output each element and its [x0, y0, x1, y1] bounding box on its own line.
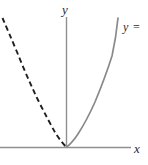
x-axis-label: x	[134, 142, 140, 155]
parabola-right-branch-solid	[67, 18, 119, 147]
curve-equation-label: y =	[123, 21, 141, 33]
parabola-left-branch-dashed	[3, 18, 67, 147]
y-axis-label: y	[62, 3, 68, 16]
parabola-figure: y x y =	[0, 0, 148, 165]
